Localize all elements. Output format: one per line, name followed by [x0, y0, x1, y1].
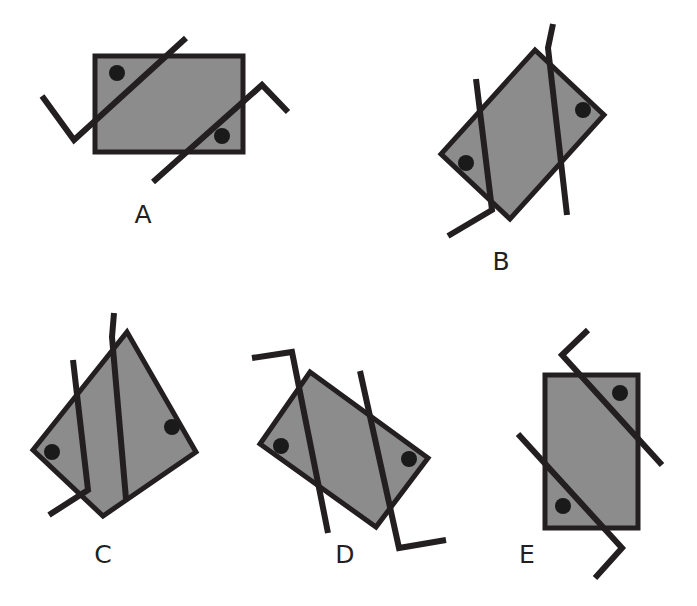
- figure-c[interactable]: C: [33, 313, 196, 569]
- figure-canvas: A B C D: [0, 0, 697, 606]
- figure-e-dot-2: [555, 498, 571, 514]
- figure-d[interactable]: D: [252, 352, 446, 569]
- figure-c-dot-1: [164, 419, 180, 435]
- figure-b-dot-1: [575, 102, 591, 118]
- figure-b-dot-2: [458, 155, 474, 171]
- figure-b-rectangle: [441, 50, 604, 219]
- figure-d-dot-1: [273, 438, 289, 454]
- figure-c-dot-2: [44, 444, 60, 460]
- figure-a[interactable]: A: [42, 38, 288, 229]
- figure-b-label: B: [492, 247, 509, 276]
- figure-e[interactable]: E: [518, 330, 662, 578]
- figure-a-dot-1: [109, 65, 125, 81]
- figure-c-label: C: [94, 540, 111, 569]
- figure-d-label: D: [335, 540, 354, 569]
- figure-a-label: A: [134, 200, 151, 229]
- figure-b[interactable]: B: [441, 24, 604, 276]
- figure-a-dot-2: [214, 128, 230, 144]
- figure-e-label: E: [519, 540, 535, 569]
- figure-e-dot-1: [612, 385, 628, 401]
- figure-sheet: A B C D: [0, 0, 697, 606]
- figure-d-dot-2: [401, 451, 417, 467]
